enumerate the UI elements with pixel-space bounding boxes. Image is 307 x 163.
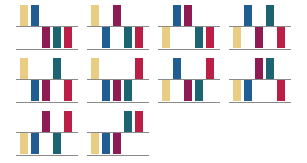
bar-yellow: [91, 58, 99, 79]
bar-crimson: [135, 58, 143, 79]
small-multiples-chart-grid: [0, 0, 307, 163]
plot-area: [16, 110, 78, 158]
baseline-axis-line: [229, 102, 291, 103]
baseline-axis-line: [158, 102, 220, 103]
bar-purple: [113, 80, 121, 101]
bar-yellow: [91, 133, 99, 154]
bar-crimson: [135, 27, 143, 48]
bar-blue: [173, 5, 181, 26]
bar-yellow: [91, 5, 99, 26]
bar-blue: [31, 5, 39, 26]
plot-area: [229, 4, 291, 52]
baseline-axis-line: [229, 49, 291, 50]
chart-panel: [14, 110, 80, 158]
chart-panel: [156, 57, 222, 105]
bar-yellow: [162, 80, 170, 101]
chart-panel: [14, 4, 80, 52]
baseline-axis-line: [158, 49, 220, 50]
baseline-axis-line: [16, 155, 78, 156]
chart-panel: [85, 57, 151, 105]
bar-crimson: [277, 80, 285, 101]
bar-teal: [195, 80, 203, 101]
bar-blue: [31, 133, 39, 154]
plot-area: [87, 57, 149, 105]
plot-area: [16, 4, 78, 52]
plot-area: [87, 4, 149, 52]
bar-purple: [113, 133, 121, 154]
bar-teal: [53, 27, 61, 48]
chart-panel: [85, 110, 151, 158]
bar-purple: [113, 5, 121, 26]
chart-panel: [156, 4, 222, 52]
bar-blue: [31, 80, 39, 101]
baseline-axis-line: [87, 102, 149, 103]
bar-purple: [184, 80, 192, 101]
bar-teal: [124, 111, 132, 132]
bar-teal: [53, 58, 61, 79]
bar-yellow: [20, 133, 28, 154]
plot-area: [87, 110, 149, 158]
bar-blue: [244, 5, 252, 26]
bar-yellow: [20, 58, 28, 79]
plot-area: [229, 57, 291, 105]
baseline-axis-line: [16, 49, 78, 50]
baseline-axis-line: [87, 155, 149, 156]
bar-purple: [42, 80, 50, 101]
bar-teal: [124, 27, 132, 48]
bar-purple: [255, 58, 263, 79]
plot-area: [158, 4, 220, 52]
bar-purple: [42, 111, 50, 132]
bar-teal: [266, 58, 274, 79]
bar-yellow: [233, 27, 241, 48]
bar-crimson: [64, 111, 72, 132]
bar-blue: [102, 80, 110, 101]
plot-area: [158, 57, 220, 105]
plot-area: [16, 57, 78, 105]
bar-teal: [53, 133, 61, 154]
bar-purple: [255, 27, 263, 48]
chart-panel: [227, 4, 293, 52]
bar-purple: [184, 5, 192, 26]
bar-crimson: [277, 27, 285, 48]
bar-crimson: [64, 27, 72, 48]
bar-blue: [102, 133, 110, 154]
bar-yellow: [162, 27, 170, 48]
bar-crimson: [206, 58, 214, 79]
baseline-axis-line: [16, 102, 78, 103]
bar-yellow: [20, 5, 28, 26]
chart-panel: [85, 4, 151, 52]
bar-crimson: [64, 80, 72, 101]
bar-teal: [195, 27, 203, 48]
baseline-axis-line: [87, 49, 149, 50]
bar-crimson: [135, 111, 143, 132]
bar-blue: [102, 27, 110, 48]
chart-panel: [227, 57, 293, 105]
chart-panel: [14, 57, 80, 105]
bar-yellow: [233, 80, 241, 101]
bar-blue: [173, 58, 181, 79]
bar-purple: [42, 27, 50, 48]
bar-blue: [244, 80, 252, 101]
bar-crimson: [206, 27, 214, 48]
bar-teal: [266, 5, 274, 26]
bar-teal: [124, 80, 132, 101]
